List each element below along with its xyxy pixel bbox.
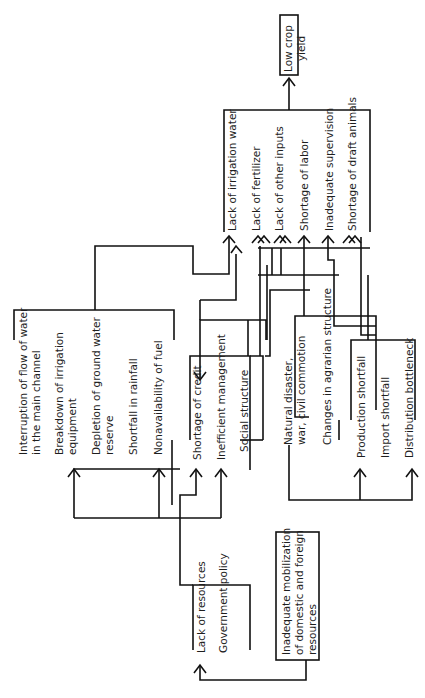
supply-cause-production-shortfall: Production shortfall [355, 356, 368, 458]
root-cause-inadequate-mobilization: Inadequate mobilization of domestic and … [280, 528, 319, 655]
water-cause-interruption-of-flow: Interruption of flow of water in the mai… [17, 308, 43, 455]
water-cause-breakdown-of-equipment: Breakdown of irrigation equipment [53, 332, 79, 455]
cause-lack-of-fertilizer: Lack of fertilizer [250, 146, 263, 231]
cause-lack-of-other-inputs: Lack of other inputs [273, 126, 286, 231]
supply-cause-import-shortfall: Import shortfall [379, 377, 392, 458]
water-cause-nonavailability-of-fuel: Nonavailability of fuel [152, 340, 165, 455]
cause-effect-diagram: Low crop yield Lack of irrigation water … [0, 0, 425, 698]
supply-cause-distribution-bottleneck: Distribution bottleneck [403, 338, 416, 458]
mgmt-cause-inefficient-management: Inefficient management [215, 334, 228, 460]
mgmt-cause-social-structure: Social structure [238, 370, 251, 452]
cause-inadequate-supervision: Inadequate supervision [323, 108, 336, 231]
outcome-label: Low crop yield [282, 25, 308, 72]
mgmt-cause-shortage-of-credit: Shortage of credit [191, 365, 204, 460]
water-cause-shortfall-in-rainfall: Shortfall in rainfall [127, 358, 140, 455]
social-cause-changes-in-agrarian-structure: Changes in agrarian structure [321, 288, 334, 445]
cause-shortage-of-draft-animals: Shortage of draft animals [346, 97, 359, 231]
resource-cause-lack-of-resources: Lack of resources [195, 561, 208, 653]
water-cause-depletion-of-ground-water: Depletion of ground water reserve [90, 317, 116, 455]
cause-shortage-of-labor: Shortage of labor [298, 140, 311, 231]
cause-lack-of-irrigation-water: Lack of irrigation water [226, 109, 239, 231]
resource-cause-government-policy: Government policy [217, 553, 230, 653]
social-cause-natural-disaster: Natural disaster, war, civil commotion [282, 336, 308, 445]
